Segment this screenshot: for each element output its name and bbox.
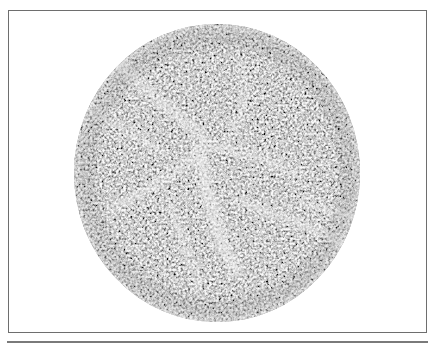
disc-content [70,20,365,326]
circular-micrograph [0,0,434,348]
bottom-rule [7,341,428,343]
